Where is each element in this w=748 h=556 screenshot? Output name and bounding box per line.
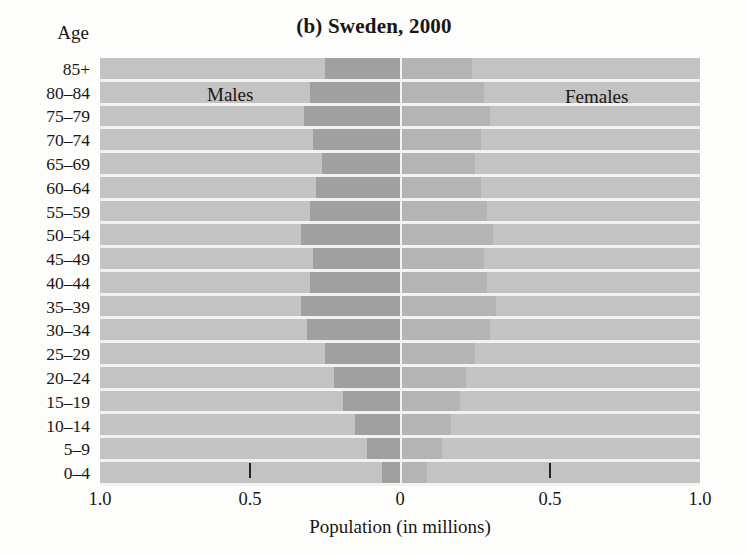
y-tick-label: 10–14 <box>46 418 90 436</box>
y-tick-label: 50–54 <box>46 227 90 245</box>
bar-female <box>400 177 481 198</box>
bar-male <box>382 462 400 483</box>
bar-female <box>400 438 442 459</box>
zero-axis-line <box>400 58 402 486</box>
y-tick-label: 85+ <box>63 61 90 79</box>
bar-male <box>301 224 400 245</box>
bar-female <box>400 414 451 435</box>
bar-female <box>400 272 487 293</box>
y-tick-label: 65–69 <box>46 156 90 174</box>
bar-male <box>325 343 400 364</box>
bar-female <box>400 391 460 412</box>
bar-male <box>307 319 400 340</box>
bar-female <box>400 319 490 340</box>
bar-male <box>304 106 400 127</box>
y-tick-label: 45–49 <box>46 251 90 269</box>
y-tick-label: 5–9 <box>64 441 90 459</box>
y-tick-label: 80–84 <box>46 85 90 103</box>
bar-male <box>313 248 400 269</box>
bar-male <box>316 177 400 198</box>
bar-female <box>400 224 493 245</box>
x-tick-label: 1.0 <box>65 489 135 510</box>
bar-female <box>400 343 475 364</box>
bar-male <box>367 438 400 459</box>
y-tick-label: 25–29 <box>46 346 90 364</box>
bar-female <box>400 462 427 483</box>
x-tick-label: 0.5 <box>215 489 285 510</box>
x-tick-mark <box>549 463 551 478</box>
bar-female <box>400 82 484 103</box>
bar-male <box>301 296 400 317</box>
x-axis-title: Population (in millions) <box>100 516 700 538</box>
population-pyramid-figure: (b) Sweden, 2000 Age 85+80–8475–7970–746… <box>0 0 748 556</box>
y-tick-label: 0–4 <box>64 465 90 483</box>
bar-male <box>310 201 400 222</box>
bar-female <box>400 153 475 174</box>
y-tick-label: 35–39 <box>46 299 90 317</box>
bar-male <box>334 367 400 388</box>
y-tick-label: 75–79 <box>46 108 90 126</box>
y-axis-tick-labels: 85+80–8475–7970–7465–6960–6455–5950–5445… <box>0 58 95 486</box>
bar-male <box>325 58 400 79</box>
y-tick-label: 30–34 <box>46 322 90 340</box>
bar-male <box>310 82 400 103</box>
chart-title: (b) Sweden, 2000 <box>0 14 748 39</box>
bar-female <box>400 296 496 317</box>
y-axis-title: Age <box>42 22 104 44</box>
bar-male <box>313 129 400 150</box>
x-tick-label: 0.5 <box>515 489 585 510</box>
x-tick-mark <box>249 463 251 478</box>
plot-area <box>100 58 700 486</box>
y-tick-label: 15–19 <box>46 394 90 412</box>
bar-female <box>400 367 466 388</box>
y-tick-label: 20–24 <box>46 370 90 388</box>
bar-male <box>310 272 400 293</box>
bar-male <box>322 153 400 174</box>
y-tick-label: 60–64 <box>46 180 90 198</box>
series-label-males: Males <box>207 84 253 106</box>
bar-female <box>400 201 487 222</box>
bar-female <box>400 58 472 79</box>
x-tick-label: 0 <box>365 489 435 510</box>
x-tick-label: 1.0 <box>665 489 735 510</box>
bar-female <box>400 129 481 150</box>
y-tick-label: 70–74 <box>46 132 90 150</box>
bar-male <box>355 414 400 435</box>
series-label-females: Females <box>565 86 628 108</box>
bar-female <box>400 248 484 269</box>
y-tick-label: 55–59 <box>46 204 90 222</box>
bar-male <box>343 391 400 412</box>
bar-female <box>400 106 490 127</box>
y-tick-label: 40–44 <box>46 275 90 293</box>
